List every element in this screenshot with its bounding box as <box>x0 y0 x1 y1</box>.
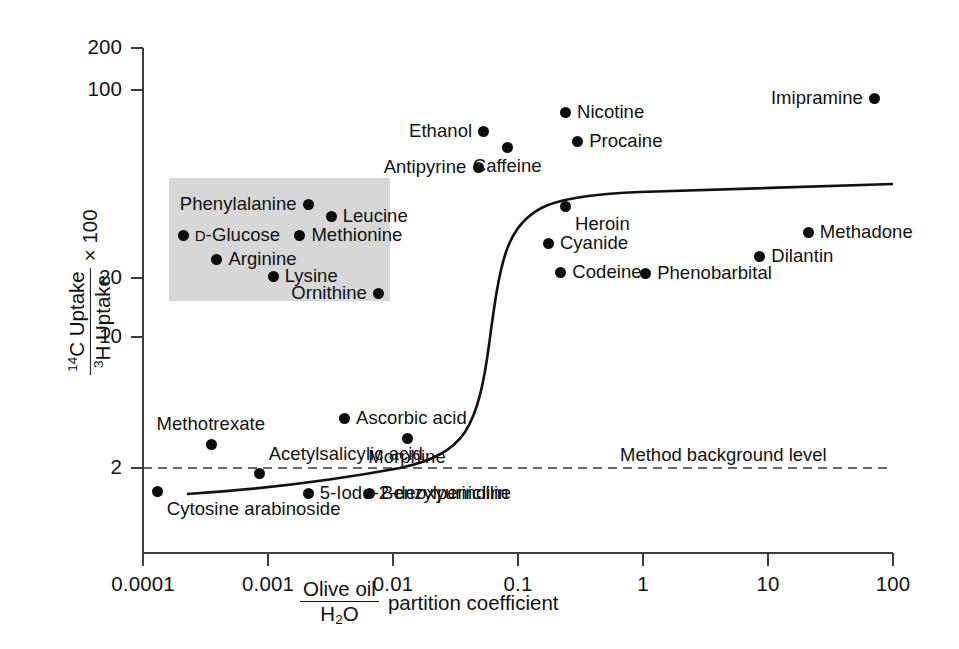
data-point-label: Ascorbic acid <box>356 408 467 429</box>
data-point-label: Cytosine arabinoside <box>167 499 341 520</box>
x-tick-100: 100 <box>843 572 943 596</box>
data-point-label: Morphine <box>368 447 446 468</box>
y-tick-100: 100 <box>60 77 122 101</box>
data-point <box>152 486 163 497</box>
data-point-label: Phenobarbital <box>657 263 772 284</box>
data-point <box>303 488 314 499</box>
x-tick-10: 10 <box>718 572 818 596</box>
data-point-label: Benzylpenicillin <box>381 483 508 504</box>
data-point <box>543 238 554 249</box>
data-point-label: Imipramine <box>771 88 863 109</box>
x-tick-0.0001: 0.0001 <box>93 572 193 596</box>
method-background-level-label: Method background level <box>620 444 827 466</box>
y-tick-200: 200 <box>60 35 122 59</box>
data-point-label: Codeine <box>572 262 641 283</box>
data-point <box>502 142 513 153</box>
data-point-label: D-Glucose <box>195 225 280 246</box>
data-point <box>268 271 279 282</box>
y-tick-2: 2 <box>60 455 122 479</box>
y-axis-ticks <box>131 48 143 468</box>
data-point <box>339 413 350 424</box>
data-point <box>373 288 384 299</box>
x-axis-denominator: H2O <box>317 602 361 628</box>
data-point-label: Ethanol <box>409 121 472 142</box>
data-point-label: Phenylalanine <box>180 194 297 215</box>
data-point <box>254 468 265 479</box>
x-axis-ticks <box>143 553 893 566</box>
y-axis-fraction: 14C Uptake 3H Uptake <box>66 268 114 375</box>
data-point-label: Cyanide <box>560 233 628 254</box>
data-point <box>560 107 571 118</box>
data-point-label: Caffeine <box>473 156 542 177</box>
data-point <box>803 227 814 238</box>
x-axis-title: Olive oil H2O partition coefficient <box>300 578 720 628</box>
data-point <box>303 199 314 210</box>
data-point-label: Ornithine <box>291 283 367 304</box>
data-point <box>869 93 880 104</box>
data-point-label: Methotrexate <box>157 414 266 435</box>
data-point <box>206 439 217 450</box>
data-point-label: Procaine <box>589 131 662 152</box>
data-point-label: Methadone <box>820 222 913 243</box>
data-point-label: Leucine <box>343 206 408 227</box>
data-point-label: Antipyrine <box>384 157 467 178</box>
y-axis-multiplier: × 100 <box>78 209 102 261</box>
data-point-label: Dilantin <box>771 246 833 267</box>
y-axis-denominator: 3H Uptake <box>91 272 115 371</box>
bbb-permeability-chart: 200 100 20 10 2 0.0001 0.001 0.01 0.1 1 … <box>0 0 959 649</box>
x-axis-title-suffix: partition coefficient <box>388 591 559 615</box>
data-point <box>364 488 375 499</box>
data-point <box>572 136 583 147</box>
y-axis-numerator: 14C Uptake <box>66 268 91 375</box>
data-point-label: Methionine <box>311 225 402 246</box>
data-point-label: Nicotine <box>577 102 644 123</box>
data-point <box>326 211 337 222</box>
x-axis-numerator: Olive oil <box>300 578 379 602</box>
y-axis-title: 14C Uptake 3H Uptake × 100 <box>66 162 114 422</box>
x-axis-fraction: Olive oil H2O <box>300 578 379 628</box>
